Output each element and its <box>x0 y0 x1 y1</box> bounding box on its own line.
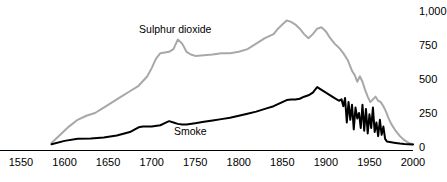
y-axis-tick-250: 250 <box>419 108 437 119</box>
series-annotation-sulphur-dioxide: Sulphur dioxide <box>139 24 211 35</box>
y-axis-tick-500: 500 <box>419 74 437 85</box>
x-axis-tick-1700: 1700 <box>130 157 174 168</box>
x-axis-tick-1650: 1650 <box>86 157 130 168</box>
x-axis-tick-1800: 1800 <box>217 157 261 168</box>
y-axis-tick-0: 0 <box>419 142 425 153</box>
x-axis-tick-1750: 1750 <box>173 157 217 168</box>
x-axis-tick-1900: 1900 <box>304 157 348 168</box>
series-annotation-smoke: Smoke <box>174 126 207 137</box>
x-axis-tick-1850: 1850 <box>260 157 304 168</box>
x-axis-tick-1600: 1600 <box>43 157 87 168</box>
y-axis-tick-1000: 1,000 <box>419 6 447 17</box>
x-axis-tick-1950: 1950 <box>347 157 391 168</box>
y-axis-tick-750: 750 <box>419 40 437 51</box>
x-axis-tick-2000: 2000 <box>391 157 435 168</box>
series-line-sulphur-dioxide <box>51 21 413 145</box>
x-axis-tick-1550: 1550 <box>0 157 43 168</box>
series-line-smoke <box>51 87 413 144</box>
